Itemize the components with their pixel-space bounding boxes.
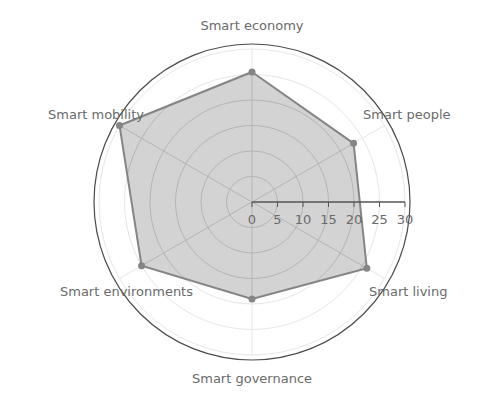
data-point — [350, 140, 357, 147]
category-label: Smart economy — [200, 18, 303, 33]
data-point — [249, 68, 256, 75]
tick-label: 30 — [397, 212, 414, 227]
tick-label: 25 — [371, 212, 388, 227]
tick-label: 15 — [320, 212, 337, 227]
data-point — [363, 265, 370, 272]
category-label: Smart living — [369, 284, 447, 299]
category-label: Smart environments — [60, 284, 193, 299]
data-point — [249, 295, 256, 302]
data-area — [119, 72, 366, 299]
category-label: Smart people — [363, 107, 451, 122]
tick-label: 5 — [273, 212, 281, 227]
tick-label: 10 — [295, 212, 312, 227]
tick-label: 0 — [248, 212, 256, 227]
category-label: Smart governance — [192, 371, 312, 386]
radar-chart: 051015202530 Smart economySmart peopleSm… — [0, 0, 479, 403]
tick-label: 20 — [346, 212, 363, 227]
data-point — [116, 122, 123, 129]
category-label: Smart mobility — [48, 107, 144, 122]
data-point — [138, 262, 145, 269]
